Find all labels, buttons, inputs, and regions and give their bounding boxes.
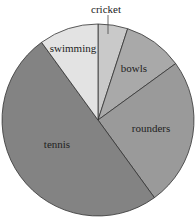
label-swimming: swimming [50,42,96,54]
label-bowls: bowls [121,62,147,74]
pie-slices [2,24,194,216]
label-rounders: rounders [132,122,171,134]
label-tennis: tennis [44,138,70,150]
pie-chart [0,0,196,224]
label-cricket: cricket [91,3,121,15]
